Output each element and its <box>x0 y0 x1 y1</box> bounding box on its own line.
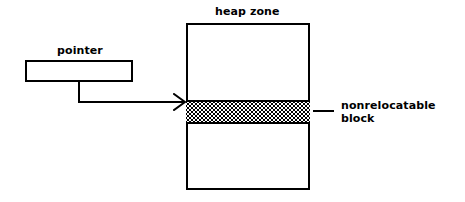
pointer-label: pointer <box>57 44 103 57</box>
connector-vertical-segment <box>78 82 80 103</box>
memory-diagram: heap zone pointer nonrelocatable block <box>0 0 465 202</box>
nonrelocatable-block-label-line1: nonrelocatable <box>341 99 436 112</box>
connector-horizontal-segment <box>78 101 184 103</box>
nonrelocatable-block-label: nonrelocatable block <box>341 99 436 125</box>
nonrelocatable-block-label-line2: block <box>341 112 436 125</box>
callout-leader-line <box>313 110 334 112</box>
pointer-box <box>25 60 133 82</box>
heap-zone-label: heap zone <box>215 5 280 18</box>
nonrelocatable-block-band <box>186 100 310 124</box>
arrow-right-icon <box>173 93 186 111</box>
